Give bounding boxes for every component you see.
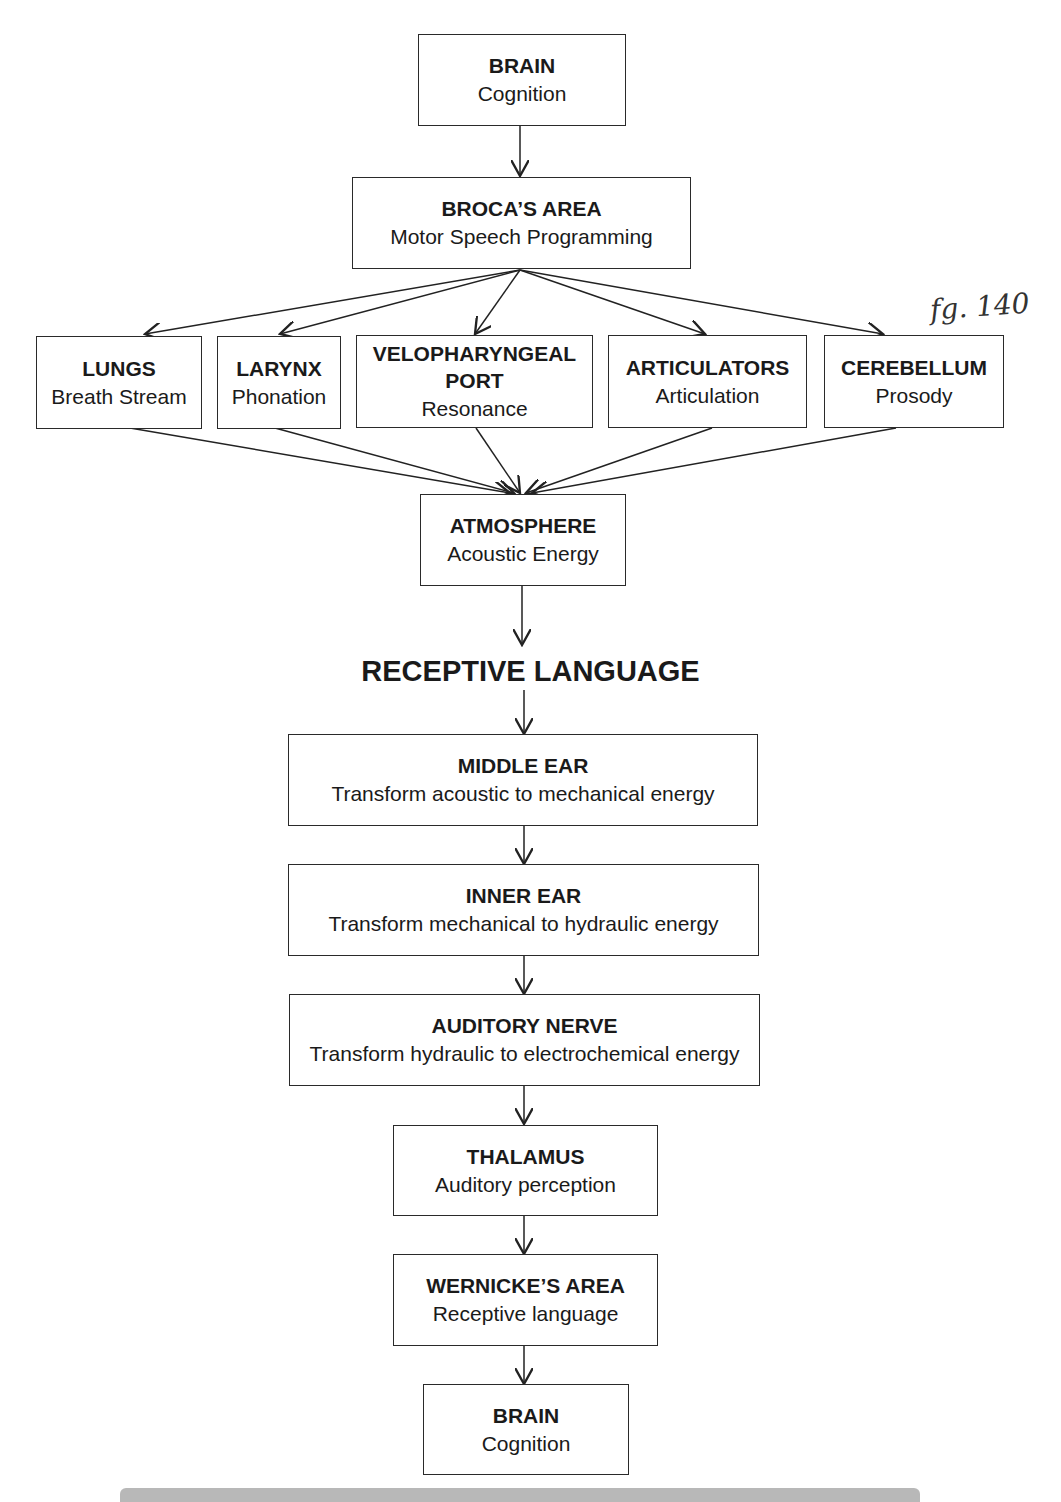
thalamus-box: THALAMUS Auditory perception	[393, 1125, 658, 1216]
auditory-nerve-box: AUDITORY NERVE Transform hydraulic to el…	[289, 994, 760, 1086]
box-subtitle: Articulation	[656, 381, 760, 410]
brain-top-box: BRAIN Cognition	[418, 34, 626, 126]
box-subtitle: Transform hydraulic to electrochemical e…	[310, 1039, 740, 1068]
inner-ear-box: INNER EAR Transform mechanical to hydrau…	[288, 864, 759, 956]
wernickes-area-box: WERNICKE’S AREA Receptive language	[393, 1254, 658, 1346]
velopharyngeal-port-box: VELOPHARYNGEAL PORT Resonance	[356, 335, 593, 428]
articulators-box: ARTICULATORS Articulation	[608, 335, 807, 428]
box-title: BRAIN	[489, 52, 556, 79]
page-edge-shadow	[120, 1488, 920, 1502]
lungs-box: LUNGS Breath Stream	[36, 336, 202, 429]
box-subtitle: Resonance	[421, 394, 527, 423]
larynx-box: LARYNX Phonation	[217, 336, 341, 429]
box-subtitle: Cognition	[482, 1429, 571, 1458]
box-subtitle: Acoustic Energy	[447, 539, 599, 568]
broca-area-box: BROCA’S AREA Motor Speech Programming	[352, 177, 691, 269]
middle-ear-box: MIDDLE EAR Transform acoustic to mechani…	[288, 734, 758, 826]
box-title: ATMOSPHERE	[450, 512, 597, 539]
section-heading: RECEPTIVE LANGUAGE	[0, 655, 1061, 688]
box-title-line1: VELOPHARYNGEAL	[373, 340, 576, 367]
box-subtitle: Phonation	[232, 382, 327, 411]
box-title: ARTICULATORS	[626, 354, 790, 381]
box-subtitle: Transform mechanical to hydraulic energy	[328, 909, 718, 938]
box-title: CEREBELLUM	[841, 354, 987, 381]
box-title: LARYNX	[236, 355, 322, 382]
box-title: BRAIN	[493, 1402, 560, 1429]
box-title: BROCA’S AREA	[441, 195, 601, 222]
box-title: AUDITORY NERVE	[432, 1012, 618, 1039]
atmosphere-box: ATMOSPHERE Acoustic Energy	[420, 494, 626, 586]
box-subtitle: Prosody	[875, 381, 952, 410]
box-title: INNER EAR	[466, 882, 582, 909]
box-title: WERNICKE’S AREA	[426, 1272, 625, 1299]
box-title-line2: PORT	[445, 367, 503, 394]
brain-bottom-box: BRAIN Cognition	[423, 1384, 629, 1475]
handwritten-annotation: fg. 140	[929, 287, 1031, 327]
box-title: MIDDLE EAR	[458, 752, 589, 779]
box-subtitle: Receptive language	[433, 1299, 619, 1328]
box-subtitle: Motor Speech Programming	[390, 222, 653, 251]
box-subtitle: Transform acoustic to mechanical energy	[331, 779, 714, 808]
cerebellum-box: CEREBELLUM Prosody	[824, 335, 1004, 428]
box-subtitle: Cognition	[478, 79, 567, 108]
box-title: LUNGS	[82, 355, 156, 382]
box-subtitle: Auditory perception	[435, 1170, 616, 1199]
box-subtitle: Breath Stream	[51, 382, 186, 411]
box-title: THALAMUS	[467, 1143, 585, 1170]
